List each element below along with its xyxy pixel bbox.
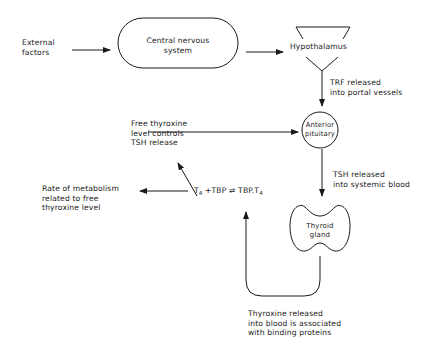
binding-equation: T4 +TBP ⇌ TBP.T4	[194, 186, 263, 196]
thyroid-regulation-diagram: External factors Central nervous system …	[0, 0, 439, 351]
thyroxine-release-label: Thyroxine released into blood is associa…	[248, 309, 341, 338]
free-thyroxine-label: Free thyroxine level controls TSH releas…	[131, 119, 187, 148]
thyroid-label: Thyroid gland	[300, 222, 340, 240]
pituitary-label: Anterior pituitary	[302, 121, 338, 138]
hypothalamus-top	[296, 27, 350, 39]
metabolism-label: Rate of metabolism related to free thyro…	[42, 184, 119, 213]
external-factors-label: External factors	[22, 38, 55, 57]
cns-label: Central nervous system	[130, 36, 226, 55]
trf-label: TRF released into portal vessels	[330, 78, 402, 97]
hypothalamus-bottom	[306, 57, 338, 71]
tsh-label: TSH released into systemic blood	[333, 170, 410, 189]
equilibrium-arrows: ⇌	[229, 186, 236, 195]
hypothalamus-label: Hypothalamus	[290, 42, 347, 52]
